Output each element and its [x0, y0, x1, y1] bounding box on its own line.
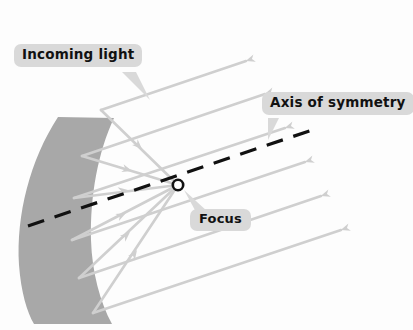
- axis-of-symmetry-callout-tail: [268, 118, 279, 140]
- incoming-ray-4: [72, 162, 305, 240]
- incoming-ray-6: [93, 230, 341, 313]
- focus-callout: Focus: [190, 209, 251, 231]
- incoming-light-callout: Incoming light: [14, 44, 142, 67]
- callout-tails: [122, 72, 279, 212]
- focus-point-marker: [173, 180, 183, 190]
- incoming-ray-1: [101, 61, 246, 110]
- parabolic-mirror: [19, 117, 114, 324]
- mirror-body: [19, 117, 114, 324]
- axis-of-symmetry-callout: Axis of symmetry: [262, 92, 413, 115]
- incoming-light-callout-tail: [122, 72, 150, 100]
- figure-canvas: Incoming light Axis of symmetry Focus: [0, 0, 413, 330]
